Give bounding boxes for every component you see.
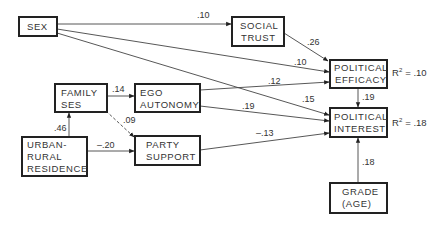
svg-text:SUPPORT: SUPPORT	[146, 151, 196, 162]
svg-text:RESIDENCE: RESIDENCE	[27, 163, 88, 174]
r2-political-interest: R2= .18	[392, 117, 427, 128]
svg-text:GRADE: GRADE	[342, 186, 379, 197]
svg-text:POLITICAL: POLITICAL	[334, 111, 388, 122]
node-urban-rural-residence: URBAN- RURAL RESIDENCE	[22, 137, 88, 176]
svg-text:POLITICAL: POLITICAL	[334, 62, 388, 73]
edge-ego-interest	[200, 106, 329, 121]
coef-sex-efficacy: .10	[294, 57, 307, 67]
svg-text:INTEREST: INTEREST	[334, 123, 386, 134]
svg-text:PARTY: PARTY	[146, 139, 180, 150]
svg-text:URBAN-: URBAN-	[27, 139, 67, 150]
node-party-support: PARTY SUPPORT	[135, 136, 200, 165]
svg-text:SEX: SEX	[27, 21, 48, 32]
svg-text:SOCIAL: SOCIAL	[240, 20, 278, 31]
node-social-trust: SOCIAL TRUST	[232, 17, 284, 46]
coef-sex-social-trust: .10	[197, 10, 210, 20]
path-diagram: .10 .10 .15 .26 .14 .09 .12 .19 .46 –.20…	[0, 0, 444, 230]
coef-efficacy-interest: .19	[362, 92, 375, 102]
svg-text:EGO: EGO	[140, 87, 163, 98]
svg-text:SES: SES	[61, 99, 82, 110]
coef-party-interest: –.13	[256, 128, 274, 138]
svg-text:FAMILY: FAMILY	[61, 87, 98, 98]
coef-social-trust-efficacy: .26	[307, 37, 320, 47]
node-ego-autonomy: EGO AUTONOMY	[135, 84, 200, 112]
node-grade-age: GRADE (AGE)	[330, 183, 387, 213]
coef-urban-party: –.20	[97, 140, 115, 150]
svg-text:RURAL: RURAL	[27, 151, 62, 162]
edge-ego-efficacy	[200, 82, 329, 90]
svg-text:EFFICACY: EFFICACY	[335, 74, 387, 85]
r2-political-efficacy: R2= .10	[392, 67, 427, 78]
coef-ego-efficacy: .12	[268, 76, 281, 86]
coef-family-ego: .14	[112, 84, 125, 94]
node-political-efficacy: POLITICAL EFFICACY	[330, 60, 388, 88]
node-political-interest: POLITICAL INTEREST	[330, 108, 388, 137]
svg-text:(AGE): (AGE)	[342, 198, 371, 209]
coef-sex-interest: .15	[302, 94, 315, 104]
coef-ego-interest: .19	[242, 101, 255, 111]
node-sex: SEX	[19, 17, 57, 36]
svg-text:AUTONOMY: AUTONOMY	[140, 99, 200, 110]
svg-text:TRUST: TRUST	[241, 32, 276, 43]
node-family-ses: FAMILY SES	[55, 84, 107, 112]
coef-urban-family: .46	[54, 123, 67, 133]
coef-grade-interest: .18	[362, 157, 375, 167]
coef-family-party: .09	[123, 115, 136, 125]
